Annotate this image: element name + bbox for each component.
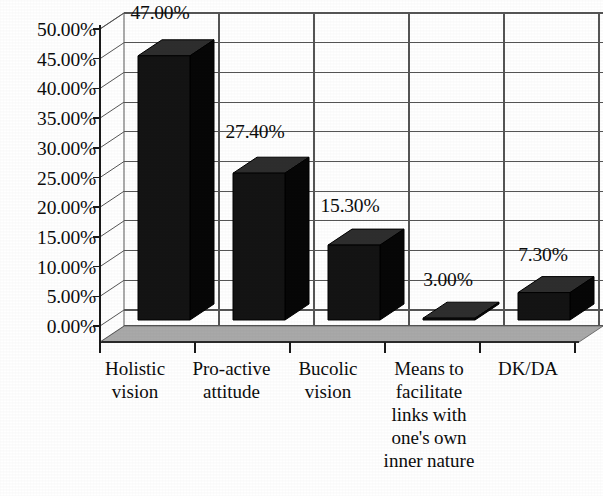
x-label-line: vision — [281, 380, 375, 403]
x-label-line: inner nature — [375, 449, 483, 472]
x-label-line: vision — [85, 380, 185, 403]
x-label-line: Means to — [375, 357, 483, 380]
x-label-dk-da: DK/DA — [481, 357, 575, 380]
x-label-pro-active-attitude: Pro-active attitude — [180, 357, 283, 403]
bar-chart: 50.00% 45.00% 40.00% 35.00% 30.00% 25.00… — [0, 0, 603, 496]
x-label-means-to-facilitate-links: Means to facilitate links with one's own… — [375, 357, 483, 472]
x-label-line: DK/DA — [481, 357, 575, 380]
x-label-holistic-vision: Holistic vision — [85, 357, 185, 403]
x-label-line: one's own — [375, 426, 483, 449]
x-label-line: Bucolic — [281, 357, 375, 380]
x-axis-labels: Holistic vision Pro-active attitude Buco… — [0, 0, 603, 496]
x-label-line: Pro-active — [180, 357, 283, 380]
x-label-line: links with — [375, 403, 483, 426]
x-label-line: facilitate — [375, 380, 483, 403]
x-label-line: attitude — [180, 380, 283, 403]
x-label-bucolic-vision: Bucolic vision — [281, 357, 375, 403]
x-label-line: Holistic — [85, 357, 185, 380]
